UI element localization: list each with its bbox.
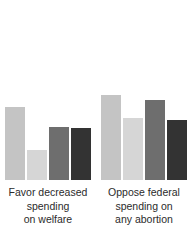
bar-series-4[interactable]: [71, 128, 91, 180]
caption-line: Favor decreased: [0, 186, 96, 200]
caption-line: spending on: [96, 200, 192, 214]
bar-group-bars: 44% 18% 32% 31%: [0, 0, 96, 182]
category-label-favor-decreased-welfare-spending: Favor decreased spending on welfare: [0, 186, 96, 231]
bar-series-1[interactable]: [101, 95, 121, 180]
caption-line: spending: [0, 200, 96, 214]
category-labels: Favor decreased spending on welfare Oppo…: [0, 186, 192, 231]
bar-slot: 51%: [101, 0, 121, 182]
bar-series-3[interactable]: [49, 127, 69, 180]
bar-slot: 32%: [49, 0, 69, 182]
plot-area: 44% 18% 32% 31%: [0, 0, 192, 182]
bar-slot: 31%: [71, 0, 91, 182]
bar-group-bars: 51% 37% 48% 36%: [96, 0, 192, 182]
bar-slot: 44%: [5, 0, 25, 182]
caption-line: Oppose federal: [96, 186, 192, 200]
bar-slot: 36%: [167, 0, 187, 182]
caption-line: any abortion: [96, 213, 192, 227]
category-label-oppose-federal-abortion-spending: Oppose federal spending on any abortion: [96, 186, 192, 231]
bar-series-4[interactable]: [167, 120, 187, 180]
caption-line: on welfare: [0, 213, 96, 227]
bar-series-2[interactable]: [123, 118, 143, 180]
bar-slot: 18%: [27, 0, 47, 182]
bar-series-2[interactable]: [27, 150, 47, 180]
bar-group-favor-decreased-welfare-spending: 44% 18% 32% 31%: [0, 0, 96, 182]
bar-group-oppose-federal-abortion-spending: 51% 37% 48% 36%: [96, 0, 192, 182]
bar-series-3[interactable]: [145, 100, 165, 180]
grouped-bar-chart: 44% 18% 32% 31%: [0, 0, 192, 231]
bar-slot: 37%: [123, 0, 143, 182]
bar-slot: 48%: [145, 0, 165, 182]
bar-series-1[interactable]: [5, 107, 25, 180]
